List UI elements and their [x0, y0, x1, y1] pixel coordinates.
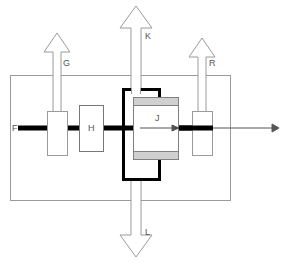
arrow-g-label: G [63, 58, 70, 68]
main-flow-label-f: F [12, 123, 18, 133]
arrow-l [120, 176, 152, 257]
main-flow-arrowhead [272, 124, 279, 132]
arrow-r-label: R [209, 58, 216, 68]
diagram-root: G R K L F H [0, 0, 282, 263]
arrow-l-label: L [145, 227, 150, 237]
arrow-l-outline [120, 176, 152, 257]
valve-box-r [193, 112, 213, 156]
main-unit-label-j: J [155, 113, 160, 123]
arrow-k-label: K [145, 31, 151, 41]
arrow-k [120, 6, 152, 94]
diagram-canvas: G R K L F H [0, 0, 282, 263]
arrow-g [44, 33, 70, 113]
main-unit-band-bottom [134, 152, 179, 160]
component-h-label: H [88, 123, 95, 133]
main-unit-band-top [134, 98, 179, 106]
arrow-k-shaft-opening [132, 88, 140, 94]
valve-box-g [48, 112, 68, 156]
arrow-k-outline [120, 6, 152, 94]
arrow-g-outline [44, 33, 70, 113]
